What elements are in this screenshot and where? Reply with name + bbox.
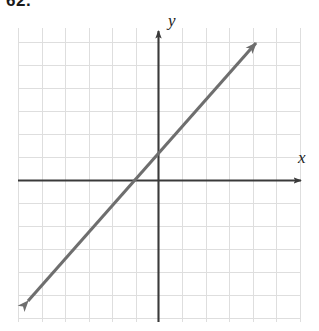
x-axis-label: x — [298, 148, 306, 168]
coordinate-plane-figure — [0, 0, 319, 331]
figure-screenshot: 62. — [0, 0, 319, 331]
graphed-line — [28, 43, 256, 301]
y-axis-label: y — [168, 11, 176, 31]
